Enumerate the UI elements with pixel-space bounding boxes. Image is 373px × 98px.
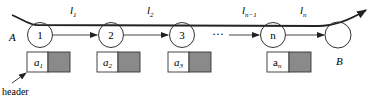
header-label: header [2,86,29,97]
segment-label-1: l1 [70,4,77,19]
node-label: 2 [108,29,114,41]
node-label: 3 [179,29,185,41]
segment-label-n-minus-1: ln−1 [242,4,257,19]
end-label: B [336,55,343,67]
node-3: 3 [170,23,195,48]
node-label: 1 [37,29,43,41]
node-end [325,22,351,48]
ellipsis: ··· [212,27,224,41]
header-arrow [12,73,26,83]
node-2: 2 [99,23,124,48]
pointer-cell [118,52,140,72]
pointer-cell [48,52,70,72]
record-n: an [267,52,311,72]
start-label: A [8,31,16,43]
node-n: n [261,23,286,48]
pointer-cell [189,52,211,72]
node-1: 1 [28,23,53,48]
record-2: a2 [97,52,140,72]
node-label: n [270,29,276,41]
linked-list-diagram: l1 l2 ln−1 ln A 1 2 3 n ··· a1 a2 [0,0,373,98]
segment-label-2: l2 [147,4,154,19]
pointer-cell [289,52,311,72]
record-3: a3 [168,52,211,72]
trajectory-path [12,10,366,26]
record-1: a1 [27,52,70,72]
segment-label-n: ln [300,4,307,19]
